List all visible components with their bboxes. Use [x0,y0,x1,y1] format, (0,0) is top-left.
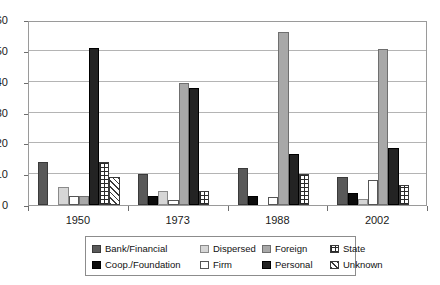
bar [158,191,168,205]
legend-item[interactable]: Foreign [262,244,330,254]
bar [189,88,199,205]
legend-label: Personal [275,260,313,270]
legend-label: State [343,244,365,254]
legend-item[interactable]: Unknown [330,260,383,270]
chart-legend: Bank/FinancialDispersedForeignStateCoop.… [85,236,356,276]
bar [248,196,258,205]
x-tick-mark [327,206,328,211]
legend-swatch-icon [262,245,271,253]
y-tick-label: 50 [0,46,8,57]
legend-swatch-icon [200,261,209,269]
plot-area [28,21,427,206]
x-tick-mark [28,206,29,211]
bar [99,162,109,205]
bar [348,193,358,205]
legend-label: Bank/Financial [105,244,167,254]
legend-swatch-icon [330,261,339,269]
x-tick-label-1950: 1950 [48,215,108,226]
x-tick-mark [427,206,428,211]
bar [238,168,248,205]
legend-swatch-icon [200,245,209,253]
bar [299,174,309,205]
bar [109,177,119,205]
bar [388,148,398,205]
bar [179,83,189,205]
y-tick-label: 10 [0,169,8,180]
x-tick-mark [228,206,229,211]
bar [89,48,99,205]
bar [148,196,158,205]
bar [399,185,409,205]
bar [289,154,299,205]
y-tick-label: 60 [0,15,8,26]
legend-swatch-icon [92,245,101,253]
legend-item[interactable]: Dispersed [200,244,262,254]
bar [378,49,388,205]
legend-label: Dispersed [213,244,256,254]
x-tick-label-1973: 1973 [148,215,208,226]
y-tick-label: 30 [0,108,8,119]
legend-item[interactable]: Bank/Financial [92,244,200,254]
y-tick-label: 20 [0,138,8,149]
legend-label: Foreign [275,244,307,254]
bar [38,162,48,205]
legend-item[interactable]: Coop./Foundation [92,260,200,270]
legend-swatch-icon [262,261,271,269]
bar [69,196,79,205]
x-tick-mark [128,206,129,211]
x-tick-label-1988: 1988 [247,215,307,226]
legend-label: Coop./Foundation [105,260,181,270]
y-tick-label: 40 [0,77,8,88]
bar [168,200,178,205]
legend-swatch-icon [330,245,339,253]
legend-item[interactable]: Personal [262,260,330,270]
legend-item[interactable]: Firm [200,260,262,270]
y-tick-label: 0 [0,200,8,211]
legend-label: Unknown [343,260,383,270]
bar-chart: 0102030405060 1950197319882002 Bank/Fina… [0,0,440,285]
bar [58,187,68,206]
legend-swatch-icon [92,261,101,269]
bar [278,32,288,205]
bar [268,197,278,205]
bar [337,177,347,205]
bar [138,174,148,205]
bar [79,196,89,205]
legend-item[interactable]: State [330,244,383,254]
bar [368,180,378,205]
bar [358,199,368,205]
x-tick-label-2002: 2002 [347,215,407,226]
bar [199,191,209,205]
legend-label: Firm [213,260,232,270]
